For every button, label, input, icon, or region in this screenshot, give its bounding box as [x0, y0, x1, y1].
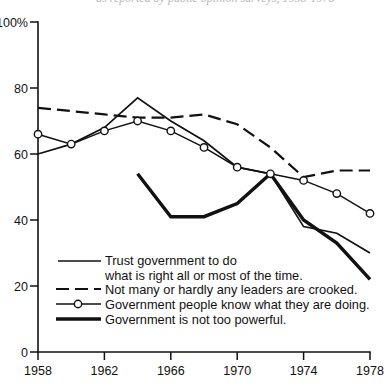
- data-point-marker: [267, 170, 274, 177]
- data-point-marker: [366, 210, 373, 217]
- x-axis-tick-labels: 195819621966197019741978: [24, 364, 384, 378]
- x-tick-label-1970: 1970: [223, 364, 251, 378]
- x-axis-ticks: [38, 352, 370, 360]
- series-line-know: [38, 121, 370, 213]
- data-point-marker: [167, 127, 174, 134]
- data-point-marker: [101, 127, 108, 134]
- y-tick-label-60: 60: [14, 148, 28, 162]
- legend-label-trust-line2: what is right all or most of the time.: [104, 268, 303, 283]
- data-point-marker: [333, 190, 340, 197]
- x-tick-label-1966: 1966: [157, 364, 185, 378]
- x-tick-label-1974: 1974: [290, 364, 318, 378]
- legend-sample-know-circle-icon: [74, 300, 81, 307]
- x-axis-group: 195819621966197019741978: [24, 352, 384, 378]
- y-axis-ticks: [30, 22, 38, 352]
- legend-label-crooked: Not many or hardly any leaders are crook…: [105, 282, 358, 297]
- x-tick-label-1978: 1978: [356, 364, 384, 378]
- legend-label-powerful: Government is not too powerful.: [105, 312, 286, 327]
- series-line-crooked: [38, 108, 370, 177]
- legend: Trust government to do what is right all…: [56, 253, 370, 327]
- legend-label-know: Government people know what they are doi…: [105, 297, 370, 312]
- series-markers-know: [34, 117, 373, 217]
- x-tick-label-1958: 1958: [24, 364, 52, 378]
- y-tick-label-20: 20: [14, 280, 28, 294]
- chart-figure: as reported by public opinion surveys, 1…: [0, 0, 390, 386]
- data-point-marker: [234, 164, 241, 171]
- y-tick-label-40: 40: [14, 214, 28, 228]
- data-point-marker: [300, 177, 307, 184]
- x-tick-label-1962: 1962: [90, 364, 118, 378]
- data-point-marker: [34, 131, 41, 138]
- y-tick-label-80: 80: [14, 82, 28, 96]
- y-tick-label-0: 0: [21, 346, 28, 360]
- y-axis-group: 020406080100%: [0, 16, 38, 360]
- data-point-marker: [200, 144, 207, 151]
- y-axis-tick-labels: 020406080100%: [0, 16, 28, 360]
- y-tick-label-100: 100%: [0, 16, 28, 30]
- data-point-marker: [134, 117, 141, 124]
- chart-canvas: 020406080100% 195819621966197019741978 T…: [0, 0, 390, 386]
- data-point-marker: [68, 140, 75, 147]
- legend-label-trust-line1: Trust government to do: [105, 253, 237, 268]
